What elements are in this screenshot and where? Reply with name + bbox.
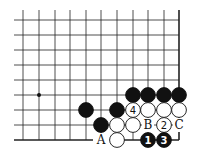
black-stone bbox=[157, 88, 172, 103]
white-stone bbox=[110, 118, 125, 133]
move-number: 3 bbox=[161, 135, 168, 146]
black-stone bbox=[94, 118, 109, 133]
stones-layer: 4213 bbox=[79, 88, 187, 148]
point-label: C bbox=[174, 118, 183, 132]
white-stone bbox=[110, 133, 125, 148]
star-points bbox=[37, 93, 41, 97]
black-stone bbox=[126, 88, 141, 103]
black-stone: 3 bbox=[157, 133, 172, 148]
white-stone bbox=[141, 103, 156, 118]
white-stone bbox=[157, 103, 172, 118]
move-number: 1 bbox=[145, 135, 152, 146]
move-number: 4 bbox=[130, 105, 136, 116]
point-label: A bbox=[96, 133, 106, 147]
black-stone bbox=[110, 103, 125, 118]
white-stone bbox=[172, 103, 187, 118]
black-stone: 1 bbox=[141, 133, 156, 148]
point-label: B bbox=[144, 118, 153, 132]
star-point bbox=[37, 93, 41, 97]
white-stone bbox=[126, 118, 141, 133]
black-stone bbox=[172, 88, 187, 103]
black-stone bbox=[79, 103, 94, 118]
white-stone: 4 bbox=[126, 103, 141, 118]
go-board-diagram: 4213 BCA bbox=[0, 0, 200, 157]
move-number: 2 bbox=[161, 120, 167, 131]
white-stone: 2 bbox=[157, 118, 172, 133]
black-stone bbox=[141, 88, 156, 103]
